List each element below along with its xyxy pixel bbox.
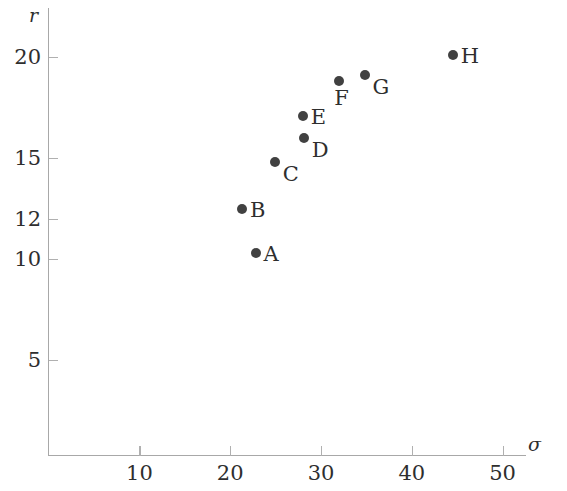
data-point-label: E bbox=[311, 106, 326, 127]
y-tick-mark bbox=[49, 259, 58, 260]
data-point-label: B bbox=[250, 199, 265, 220]
x-tick-label: 50 bbox=[489, 463, 516, 484]
data-point-label: D bbox=[312, 139, 329, 160]
data-point-label: G bbox=[373, 77, 390, 98]
x-tick-mark bbox=[230, 446, 231, 456]
x-tick-mark bbox=[412, 446, 413, 456]
y-tick-mark bbox=[49, 158, 58, 159]
y-axis-label: r bbox=[29, 6, 38, 25]
x-tick-label: 40 bbox=[398, 463, 425, 484]
data-point-marker bbox=[360, 70, 370, 80]
y-axis-line bbox=[48, 8, 49, 456]
data-point-label: H bbox=[461, 46, 479, 67]
y-tick-mark bbox=[49, 57, 58, 58]
data-point-label: A bbox=[264, 243, 279, 264]
x-tick-label: 10 bbox=[126, 463, 153, 484]
y-tick-label: 15 bbox=[0, 148, 41, 169]
x-tick-mark bbox=[503, 446, 504, 456]
x-tick-mark bbox=[321, 446, 322, 456]
data-point-marker bbox=[448, 50, 458, 60]
data-point-marker bbox=[299, 133, 309, 143]
x-axis-label: σ bbox=[528, 435, 541, 454]
x-tick-label: 30 bbox=[308, 463, 335, 484]
data-point-label: F bbox=[334, 88, 349, 109]
x-tick-label: 20 bbox=[217, 463, 244, 484]
x-tick-mark bbox=[139, 446, 140, 456]
data-point-marker bbox=[298, 111, 308, 121]
data-point-label: C bbox=[283, 164, 299, 185]
data-point-marker bbox=[251, 248, 261, 258]
y-tick-mark bbox=[49, 360, 58, 361]
y-tick-label: 12 bbox=[0, 208, 41, 229]
y-tick-label: 5 bbox=[0, 350, 41, 371]
data-point-marker bbox=[237, 204, 247, 214]
y-tick-label: 10 bbox=[0, 249, 41, 270]
scatter-plot: r σ 510121520 1020304050 ABCDEFGH bbox=[0, 0, 567, 491]
y-tick-mark bbox=[49, 219, 58, 220]
y-tick-label: 20 bbox=[0, 47, 41, 68]
data-point-marker bbox=[334, 76, 344, 86]
x-axis-line bbox=[48, 455, 526, 456]
data-point-marker bbox=[270, 157, 280, 167]
